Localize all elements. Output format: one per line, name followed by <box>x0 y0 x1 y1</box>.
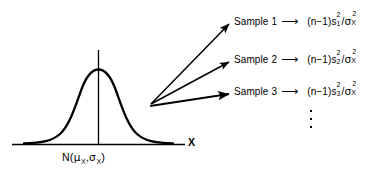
arrow-to-sample-2 <box>151 62 229 104</box>
vertical-ellipsis-icon <box>310 110 312 134</box>
right-arrow-icon: ⟶ <box>281 15 298 27</box>
formula-variance-superscript: 2 <box>352 48 356 55</box>
formula-stat-scripts: 23 <box>337 85 342 95</box>
ellipsis-dot <box>310 126 312 128</box>
sample-statistic-formula: (n−1)s22/σ2X <box>307 53 357 65</box>
sample-row: Sample 1 ⟶ (n−1)s21/σ2X <box>234 10 357 32</box>
right-arrow-icon: ⟶ <box>281 85 298 97</box>
formula-variance-superscript: 2 <box>352 80 356 87</box>
formula-variance-subscript: X <box>351 89 356 96</box>
distribution-label: N(μX,σX) <box>62 152 105 165</box>
mean-symbol: μ <box>74 151 81 163</box>
formula-variance-superscript: 2 <box>352 10 356 17</box>
right-arrow-icon: ⟶ <box>281 53 298 65</box>
formula-variance-scripts: 2X <box>351 85 357 95</box>
sample-statistic-formula: (n−1)s23/σ2X <box>307 85 357 97</box>
arrow-to-sample-3 <box>150 94 229 106</box>
sample-label: Sample 3 <box>234 86 277 97</box>
sample-row: Sample 3 ⟶ (n−1)s23/σ2X <box>234 80 357 102</box>
formula-variance-scripts: 2X <box>351 53 357 63</box>
formula-stat-scripts: 21 <box>337 15 342 25</box>
formula-variance-symbol: σ <box>344 85 351 97</box>
formula-stat-subscript: 3 <box>337 90 341 97</box>
formula-variance-symbol: σ <box>344 15 351 27</box>
formula-variance-scripts: 2X <box>351 15 357 25</box>
formula-stat-superscript: 2 <box>337 81 341 88</box>
x-axis-label: X <box>188 137 195 148</box>
sd-symbol: σ <box>89 151 96 163</box>
statistics-diagram: N(μX,σX) X Sample 1 ⟶ (n−1)s21/σ2X Sampl… <box>0 0 389 173</box>
formula-stat-scripts: 22 <box>337 53 342 63</box>
formula-stat-superscript: 2 <box>337 11 341 18</box>
sample-statistic-formula: (n−1)s21/σ2X <box>307 15 357 27</box>
sample-row: Sample 2 ⟶ (n−1)s22/σ2X <box>234 48 357 70</box>
formula-variance-symbol: σ <box>344 53 351 65</box>
formula-stat-subscript: 2 <box>337 58 341 65</box>
arrow-to-sample-1 <box>151 24 229 104</box>
formula-stat-superscript: 2 <box>337 49 341 56</box>
formula-variance-subscript: X <box>351 57 356 64</box>
distribution-close-paren: ) <box>101 151 105 163</box>
formula-stat-subscript: 1 <box>337 20 341 27</box>
formula-variance-subscript: X <box>351 19 356 26</box>
sample-label: Sample 2 <box>234 54 277 65</box>
ellipsis-dot <box>310 118 312 120</box>
sample-label: Sample 1 <box>234 16 277 27</box>
ellipsis-dot <box>310 110 312 112</box>
distribution-label-prefix: N <box>62 151 70 163</box>
